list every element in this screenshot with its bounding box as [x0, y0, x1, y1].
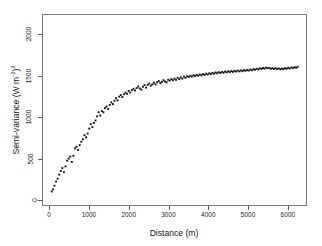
y-tick-label-0: 0 [32, 197, 36, 204]
y-tick-2000 [38, 34, 42, 35]
x-tick-label-0: 0 [47, 211, 51, 218]
y-tick-label-1000: 1000 [21, 114, 36, 121]
x-tick-2000 [129, 206, 130, 210]
y-tick-500 [38, 159, 42, 160]
y-axis-title-exponent-squared: 2 [10, 65, 16, 68]
y-axis-title-text: Semi-variance (W m [11, 77, 21, 155]
scatter-series [43, 15, 306, 205]
y-tick-1000 [38, 117, 42, 118]
x-tick-label-6000: 6000 [281, 211, 296, 218]
x-tick-6000 [288, 206, 289, 210]
x-tick-1000 [89, 206, 90, 210]
y-tick-label-2000: 2000 [21, 31, 36, 38]
y-tick-1500 [38, 76, 42, 77]
plot-panel [42, 14, 307, 206]
x-tick-label-4000: 4000 [201, 211, 216, 218]
y-axis-title: Semi-variance (W m-2)2 [11, 65, 21, 154]
y-tick-label-1500: 1500 [21, 72, 36, 79]
x-tick-0 [49, 206, 50, 210]
x-axis-title: Distance (m) [150, 228, 199, 238]
x-tick-label-5000: 5000 [241, 211, 256, 218]
x-tick-4000 [208, 206, 209, 210]
y-axis-title-exponent-units: -2 [10, 72, 16, 77]
x-tick-5000 [248, 206, 249, 210]
x-tick-3000 [169, 206, 170, 210]
x-tick-label-1000: 1000 [82, 211, 97, 218]
x-tick-label-2000: 2000 [121, 211, 136, 218]
variogram-figure: Distance (m) Semi-variance (W m-2)2 0100… [0, 0, 322, 246]
y-tick-0 [38, 200, 42, 201]
y-tick-label-500: 500 [25, 155, 36, 162]
y-axis-title-paren: ) [11, 69, 21, 72]
plot-area [43, 15, 306, 205]
x-tick-label-3000: 3000 [161, 211, 176, 218]
